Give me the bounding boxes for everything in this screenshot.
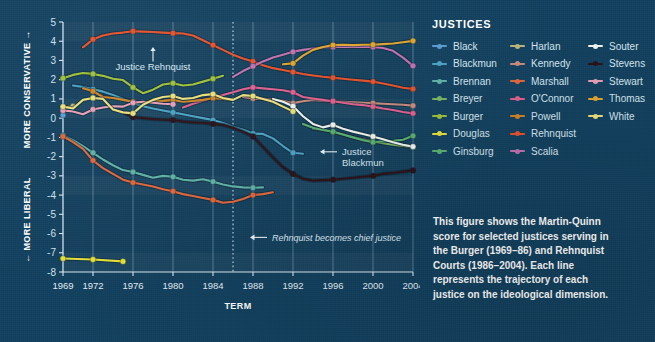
legend-item-black[interactable]: Black xyxy=(432,39,510,53)
series-marker xyxy=(120,259,126,265)
series-marker xyxy=(370,139,376,145)
series-marker xyxy=(90,71,96,77)
series-marker xyxy=(250,93,256,99)
legend-item-rehnquist[interactable]: Rehnquist xyxy=(510,127,588,141)
x-tick-label: 1996 xyxy=(322,280,343,291)
legend-swatch-icon xyxy=(588,93,603,104)
series-marker xyxy=(290,171,296,177)
legend-item-label: Souter xyxy=(609,41,638,52)
series-marker xyxy=(330,177,336,183)
legend-item-souter[interactable]: Souter xyxy=(588,39,655,53)
legend-item-label: Brennan xyxy=(453,76,491,87)
legend-item-label: Stewart xyxy=(609,76,643,87)
legend-swatch-icon xyxy=(588,111,603,122)
legend-swatch-icon xyxy=(510,128,525,139)
figure-caption: This figure shows the Martin-Quinnscore … xyxy=(433,215,651,303)
series-marker xyxy=(370,104,376,110)
series-marker xyxy=(330,75,336,81)
series-marker xyxy=(130,110,136,116)
legend-swatch-icon xyxy=(510,93,525,104)
series-marker xyxy=(290,150,296,156)
legend-item-thomas[interactable]: Thomas xyxy=(588,92,655,106)
series-marker xyxy=(60,256,66,262)
series-marker xyxy=(90,107,96,113)
series-marker xyxy=(410,38,416,44)
legend-item-label: Blackmun xyxy=(453,58,497,69)
series-marker xyxy=(290,69,296,75)
legend-item-label: Breyer xyxy=(453,93,482,104)
caption-line: Courts (1986–2004). Each line xyxy=(433,259,651,274)
legend-item-label: Marshall xyxy=(531,76,569,87)
x-tick-label: 2004 xyxy=(402,280,420,291)
series-marker xyxy=(210,76,216,82)
series-marker xyxy=(410,110,416,116)
series-marker xyxy=(130,28,136,34)
series-marker xyxy=(60,75,66,81)
series-marker xyxy=(170,101,176,107)
legend-item-marshall[interactable]: Marshall xyxy=(510,74,588,88)
legend-swatch-icon xyxy=(588,41,603,52)
legend-item-kennedy[interactable]: Kennedy xyxy=(510,57,588,71)
x-axis-title: TERM xyxy=(224,301,251,311)
y-tick-label: 1 xyxy=(50,93,56,104)
legend-item-stevens[interactable]: Stevens xyxy=(588,57,655,71)
series-marker xyxy=(250,63,256,69)
y-tick-label: -4 xyxy=(47,190,56,201)
series-marker xyxy=(210,42,216,48)
y-tick-label: -7 xyxy=(47,247,56,258)
legend-item-label: Burger xyxy=(453,111,483,122)
series-marker xyxy=(130,180,136,186)
legend-item-harlan[interactable]: Harlan xyxy=(510,39,588,53)
legend-item-blackmun[interactable]: Blackmun xyxy=(432,57,510,71)
legend-column-2: SouterStevensStewartThomasWhite xyxy=(588,39,655,158)
legend-item-scalia[interactable]: Scalia xyxy=(510,144,588,158)
series-marker xyxy=(330,129,336,135)
legend-item-oconnor[interactable]: O'Connor xyxy=(510,92,588,106)
series-marker xyxy=(90,158,96,164)
y-tick-label: 3 xyxy=(50,55,56,66)
legend-swatch-icon xyxy=(432,146,447,157)
y-tick-label: 0 xyxy=(50,113,56,124)
series-marker xyxy=(170,93,176,99)
legend-item-white[interactable]: White xyxy=(588,109,655,123)
legend-item-stewart[interactable]: Stewart xyxy=(588,74,655,88)
series-marker xyxy=(90,36,96,42)
legend-columns: BlackBlackmunBrennanBreyerBurgerDouglasG… xyxy=(432,39,655,158)
series-marker xyxy=(410,168,416,174)
series-marker xyxy=(410,86,416,92)
series-marker xyxy=(90,150,96,156)
legend-item-brennan[interactable]: Brennan xyxy=(432,74,510,88)
legend-item-label: Stevens xyxy=(609,58,645,69)
series-marker xyxy=(250,134,256,140)
y-tick-label: 5 xyxy=(50,17,56,28)
series-marker xyxy=(170,174,176,180)
legend-item-powell[interactable]: Powell xyxy=(510,109,588,123)
series-marker xyxy=(370,134,376,140)
legend-item-label: Black xyxy=(453,41,477,52)
legend-swatch-icon xyxy=(432,76,447,87)
x-tick-label: 1980 xyxy=(162,280,183,291)
legend-item-label: White xyxy=(609,111,635,122)
y-tick-label: -5 xyxy=(47,209,56,220)
legend-item-breyer[interactable]: Breyer xyxy=(432,92,510,106)
x-tick-label: 1972 xyxy=(82,280,103,291)
legend-swatch-icon xyxy=(432,41,447,52)
legend-swatch-icon xyxy=(510,111,525,122)
legend-swatch-icon xyxy=(510,41,525,52)
series-marker xyxy=(290,89,296,95)
legend-swatch-icon xyxy=(432,58,447,69)
legend-item-douglas[interactable]: Douglas xyxy=(432,127,510,141)
legend-item-ginsburg[interactable]: Ginsburg xyxy=(432,144,510,158)
legend-swatch-icon xyxy=(432,93,447,104)
series-marker xyxy=(210,91,216,97)
legend-item-burger[interactable]: Burger xyxy=(432,109,510,123)
plot-band xyxy=(63,214,413,233)
y-axis-title-liberal: ← MORE LIBERAL xyxy=(22,177,32,263)
series-marker xyxy=(170,188,176,194)
series-marker xyxy=(290,60,296,66)
series-marker xyxy=(130,169,136,175)
series-marker xyxy=(170,109,176,115)
series-marker xyxy=(330,42,336,48)
legend-column-0: BlackBlackmunBrennanBreyerBurgerDouglasG… xyxy=(432,39,510,158)
series-marker xyxy=(330,98,336,104)
